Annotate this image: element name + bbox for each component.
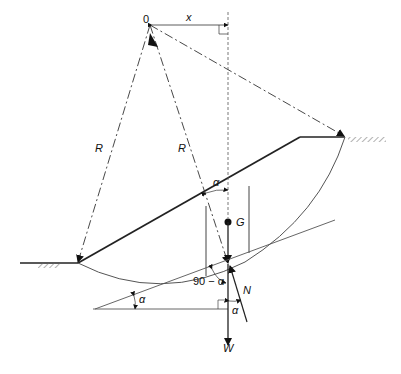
right-angle-top bbox=[219, 25, 228, 34]
alpha-arc-bottom bbox=[229, 300, 241, 301]
slope-stability-diagram: 0 x R R α G 90 − α N α α W bbox=[0, 0, 401, 374]
radius-label-left: R bbox=[95, 142, 103, 154]
alpha-arc-top bbox=[206, 190, 228, 193]
ground-hatch-left bbox=[38, 263, 60, 268]
normal-label: N bbox=[243, 284, 251, 296]
x-label: x bbox=[185, 11, 192, 23]
alpha-label-bottom: α bbox=[232, 304, 239, 316]
right-angle-bottom bbox=[218, 300, 228, 309]
radius-label-right: R bbox=[178, 142, 186, 154]
alpha-label-top: α bbox=[213, 176, 220, 188]
center-arrow-icon bbox=[148, 33, 158, 47]
center-label: 0 bbox=[143, 13, 149, 25]
alpha-label-left: α bbox=[139, 293, 146, 305]
alpha-arc-left bbox=[134, 296, 135, 309]
weight-label: W bbox=[223, 342, 235, 354]
ground-profile bbox=[20, 137, 386, 268]
ground-hatch-right bbox=[348, 137, 386, 142]
slip-surface-arc bbox=[78, 137, 345, 284]
radius-lines bbox=[78, 25, 344, 263]
angle-90-label: 90 − α bbox=[193, 275, 225, 287]
gravity-label: G bbox=[236, 216, 245, 228]
